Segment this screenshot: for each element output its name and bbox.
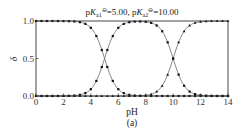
data-point-triangle (177, 41, 180, 44)
data-point-square (106, 49, 108, 51)
data-point-square (112, 80, 114, 82)
x-tick-label: 8 (143, 97, 148, 107)
data-point-square (194, 93, 196, 95)
speciation-chart: pKa1⊖=5.00, pKa2⊖=10.00 0.00.51.0 024681… (0, 0, 240, 135)
y-tick-label: 1.0 (23, 16, 35, 26)
data-point-square (150, 22, 152, 24)
data-point-square (112, 35, 114, 37)
data-point-square (189, 90, 191, 92)
y-tick-label: 0.0 (23, 91, 35, 101)
data-point-square (95, 35, 97, 37)
data-point-square (167, 41, 169, 43)
data-point-triangle (166, 73, 169, 76)
x-tick-label: 2 (61, 97, 66, 107)
data-point-square (117, 27, 119, 29)
plot-frame (36, 21, 228, 96)
data-point-square (106, 66, 108, 68)
y-axis-label: δ (9, 56, 19, 61)
curve-delta1 (36, 21, 228, 96)
data-point-square (101, 66, 103, 68)
data-point-square (123, 92, 125, 94)
x-tick-label: 4 (89, 97, 94, 107)
data-point-square (156, 24, 158, 26)
curve-delta0 (36, 21, 228, 96)
x-tick-label: 12 (196, 97, 205, 107)
y-tick-label: 0.5 (23, 54, 35, 64)
figure-caption: (a) (127, 118, 138, 129)
chart-title: pKa1⊖=5.00, pKa2⊖=10.00 (85, 7, 179, 18)
x-tick-label: 6 (116, 97, 121, 107)
data-point-square (178, 74, 180, 76)
data-point-square (95, 80, 97, 82)
curve-delta2 (36, 21, 228, 96)
x-tick-label: 10 (169, 97, 179, 107)
data-point-square (161, 30, 163, 32)
data-point-square (84, 23, 86, 25)
data-point-square (101, 49, 103, 51)
plot-area (35, 20, 230, 98)
x-tick-label: 14 (224, 97, 234, 107)
x-tick-label: 0 (34, 97, 39, 107)
data-point-square (123, 23, 125, 25)
data-point-square (90, 88, 92, 90)
data-point-square (183, 85, 185, 87)
data-point-square (117, 88, 119, 90)
x-axis-label: pH (126, 107, 138, 117)
data-point-square (90, 27, 92, 29)
data-point-square (84, 92, 86, 94)
